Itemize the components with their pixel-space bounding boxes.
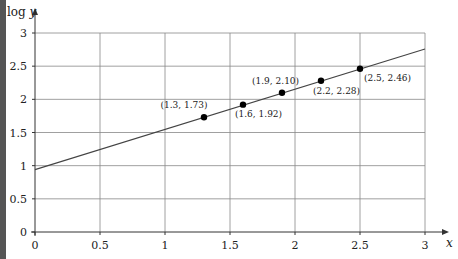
x-tick-label: 1 xyxy=(162,239,169,252)
x-axis-arrow-icon xyxy=(442,229,449,235)
x-axis-label: x xyxy=(446,236,453,250)
data-points: (1.3, 1.73)(1.6, 1.92)(1.9, 2.10)(2.2, 2… xyxy=(160,66,411,121)
y-tick-label: 0 xyxy=(20,226,27,239)
tick-labels: 00.511.522.5300.511.522.53 xyxy=(10,27,429,252)
data-point xyxy=(240,101,246,107)
y-tick-label: 1.5 xyxy=(10,127,28,140)
y-tick-label: 1 xyxy=(20,160,27,173)
y-axis-label: log y xyxy=(7,5,37,19)
x-tick-label: 0.5 xyxy=(91,239,109,252)
y-tick-label: 2.5 xyxy=(10,60,28,73)
y-tick-label: 2 xyxy=(20,93,27,106)
data-point-label: (2.2, 2.28) xyxy=(313,86,360,96)
data-point xyxy=(279,90,285,96)
log-y-vs-x-chart: xlog y 00.511.522.5300.511.522.53 (1.3, … xyxy=(0,0,458,259)
data-point xyxy=(318,78,324,84)
x-tick-label: 2.5 xyxy=(351,239,369,252)
x-tick-label: 2 xyxy=(292,239,299,252)
y-tick-label: 3 xyxy=(20,27,27,40)
y-tick-label: 0.5 xyxy=(10,193,28,206)
data-point-label: (2.5, 2.46) xyxy=(364,73,411,83)
data-point-label: (1.9, 2.10) xyxy=(252,76,299,86)
data-point xyxy=(201,114,207,120)
x-tick-label: 0 xyxy=(32,239,39,252)
data-point-label: (1.6, 1.92) xyxy=(235,109,282,119)
x-tick-label: 1.5 xyxy=(221,239,239,252)
data-point xyxy=(357,66,363,72)
x-tick-label: 3 xyxy=(422,239,429,252)
data-point-label: (1.3, 1.73) xyxy=(160,100,207,110)
grid-lines xyxy=(35,33,425,232)
